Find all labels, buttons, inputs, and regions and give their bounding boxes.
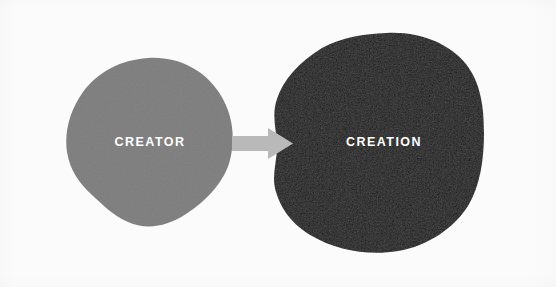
diagram-canvas: CREATOR CREATION bbox=[0, 0, 556, 287]
creation-node-label: CREATION bbox=[286, 135, 482, 149]
creator-node-label: CREATOR bbox=[66, 135, 234, 149]
